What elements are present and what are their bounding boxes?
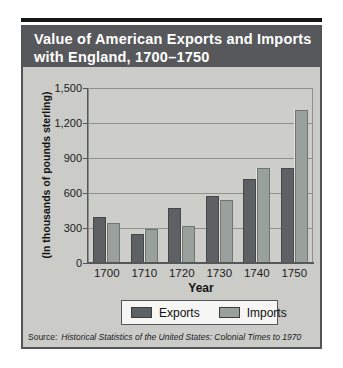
x-tick-label-1720: 1720 — [163, 267, 201, 280]
chart-title-line1: Value of American Exports and Imports — [34, 30, 312, 48]
bar-imports-1740 — [257, 168, 270, 263]
bar-imports-1700 — [107, 223, 120, 263]
bar-exports-1730 — [206, 196, 219, 263]
bar-imports-1720 — [182, 226, 195, 263]
y-tick-label-1200: 1,200 — [37, 117, 82, 129]
legend-label-exports: Exports — [159, 307, 200, 319]
y-tick-label-300: 300 — [37, 222, 82, 234]
y-axis-title: (In thousands of pounds sterling) — [40, 85, 52, 265]
source-prefix: Source: — [28, 332, 57, 342]
gridline-300 — [88, 228, 313, 229]
chart-title: Value of American Exports and Imports wi… — [23, 27, 320, 67]
x-tick-label-1700: 1700 — [88, 267, 126, 280]
bar-exports-1740 — [243, 179, 256, 263]
x-tick-label-1750: 1750 — [276, 267, 314, 280]
plot-area — [88, 88, 313, 263]
y-tick-mark-600 — [83, 193, 87, 194]
y-tick-label-600: 600 — [37, 187, 82, 199]
x-axis-labels: 170017101720173017401750 — [88, 267, 313, 281]
bar-exports-1720 — [168, 208, 181, 263]
x-axis-line — [87, 262, 314, 264]
figure: Value of American Exports and Imports wi… — [0, 0, 343, 368]
y-tick-mark-900 — [83, 158, 87, 159]
y-tick-mark-1500 — [83, 88, 87, 89]
x-axis-title: Year — [170, 281, 232, 295]
x-tick-label-1740: 1740 — [238, 267, 276, 280]
y-tick-label-0: 0 — [37, 257, 82, 269]
source-note: Source:Historical Statistics of the Unit… — [28, 332, 316, 342]
x-tick-label-1730: 1730 — [201, 267, 239, 280]
gridline-1200 — [88, 123, 313, 124]
legend: Exports Imports — [121, 300, 278, 325]
bar-exports-1710 — [131, 234, 144, 263]
legend-swatch-exports — [131, 307, 152, 318]
y-tick-label-1500: 1,500 — [37, 82, 82, 94]
bar-exports-1700 — [93, 217, 106, 263]
top-rule — [21, 18, 322, 22]
y-axis-line — [87, 88, 88, 264]
legend-swatch-imports — [219, 307, 240, 318]
y-tick-mark-1200 — [83, 123, 87, 124]
chart-title-line2: with England, 1700–1750 — [34, 48, 312, 66]
legend-label-imports: Imports — [247, 307, 287, 319]
bar-exports-1750 — [281, 168, 294, 263]
y-tick-label-900: 900 — [37, 152, 82, 164]
gridline-900 — [88, 158, 313, 159]
y-tick-mark-0 — [83, 263, 87, 264]
bar-imports-1750 — [295, 110, 308, 263]
chart-card: Value of American Exports and Imports wi… — [21, 25, 322, 349]
y-tick-mark-300 — [83, 228, 87, 229]
bar-imports-1710 — [145, 229, 158, 263]
source-citation: Historical Statistics of the United Stat… — [61, 332, 301, 342]
x-tick-label-1710: 1710 — [126, 267, 164, 280]
gridline-600 — [88, 193, 313, 194]
bar-imports-1730 — [220, 200, 233, 263]
